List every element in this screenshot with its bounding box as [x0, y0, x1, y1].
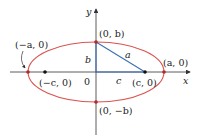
pointer-arrow-icon	[21, 51, 25, 68]
vertex-right-label: (a, 0)	[163, 57, 188, 68]
y-axis-label: y	[85, 6, 92, 17]
covertex-top-label: (0, b)	[99, 28, 125, 39]
vertex-left-point	[26, 70, 30, 74]
x-axis-label: x	[183, 75, 189, 86]
covertex-top-point	[94, 40, 98, 44]
origin-label: 0	[84, 76, 90, 87]
focus-right-label: (c, 0)	[132, 77, 157, 88]
covertex-bottom-label: (0, −b)	[99, 105, 133, 116]
vertex-right-point	[162, 70, 166, 74]
segment-c-label: c	[116, 75, 122, 86]
segment-a-label: a	[125, 49, 131, 60]
segment-a	[96, 42, 145, 72]
focus-right-point	[143, 70, 147, 74]
focus-left-point	[43, 70, 47, 74]
segment-b-label: b	[85, 54, 91, 65]
vertex-left-label: (−a, 0)	[15, 39, 48, 50]
focus-left-label: (−c, 0)	[39, 77, 72, 88]
covertex-bottom-point	[94, 100, 98, 104]
ellipse-diagram: y x 0 (0, b) (0, −b) (−a, 0) (a, 0) (−c,…	[0, 0, 204, 137]
